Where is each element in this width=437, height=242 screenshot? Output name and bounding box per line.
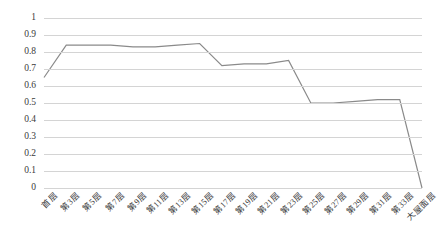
x-tick-label: 第11层	[146, 191, 171, 216]
x-tick-label: 第27层	[323, 191, 348, 216]
x-tick-label: 第13层	[168, 191, 193, 216]
x-tick-label: 第23层	[279, 191, 304, 216]
y-tick-label: 1	[31, 13, 36, 23]
gridline	[44, 69, 422, 70]
y-axis: 00.10.20.30.40.50.60.70.80.91	[0, 18, 40, 188]
x-tick-label: 第29层	[346, 191, 371, 216]
y-tick-label: 0.4	[24, 115, 36, 125]
x-tick-label: 第31层	[368, 191, 393, 216]
gridline	[44, 103, 422, 104]
x-tick-label: 第17层	[212, 191, 237, 216]
gridline	[44, 171, 422, 172]
series-1-polyline	[44, 44, 422, 189]
x-tick-label: 第19层	[234, 191, 259, 216]
x-tick-label: 第25层	[301, 191, 326, 216]
x-tick-label: 第3层	[60, 191, 82, 213]
y-tick-label: 0.3	[24, 132, 36, 142]
gridline	[44, 154, 422, 155]
x-tick-label: 第21层	[257, 191, 282, 216]
gridline	[44, 86, 422, 87]
y-tick-label: 0.9	[24, 30, 36, 40]
y-tick-label: 0.5	[24, 98, 36, 108]
x-axis: 首层第3层第5层第7层第9层第11层第13层第15层第17层第19层第21层第2…	[44, 189, 422, 242]
y-tick-label: 0.8	[24, 47, 36, 57]
y-tick-label: 0.1	[24, 166, 36, 176]
gridline	[44, 35, 422, 36]
y-tick-label: 0.6	[24, 81, 36, 91]
gridline	[44, 52, 422, 53]
x-tick-label: 第5层	[82, 191, 104, 213]
y-tick-label: 0.7	[24, 64, 36, 74]
gridline	[44, 137, 422, 138]
gridline	[44, 120, 422, 121]
y-tick-label: 0	[31, 183, 36, 193]
gridline	[44, 18, 422, 19]
x-tick-label: 首层	[40, 191, 59, 210]
y-tick-label: 0.2	[24, 149, 36, 159]
plot-area	[44, 18, 422, 188]
x-tick-label: 第15层	[190, 191, 215, 216]
x-tick-label: 第7层	[104, 191, 126, 213]
